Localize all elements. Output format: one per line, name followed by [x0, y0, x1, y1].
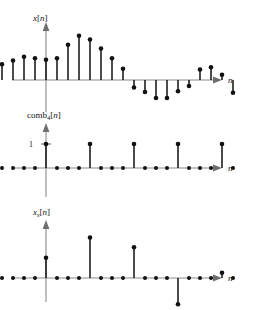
plot-xs: xs[n] n: [0, 207, 235, 307]
stem-marker: [121, 276, 125, 280]
stem-marker: [176, 142, 181, 147]
stem-marker: [88, 37, 93, 42]
stem-marker: [209, 65, 214, 70]
stem-marker: [22, 54, 27, 59]
stem-marker: [154, 166, 158, 170]
stem-marker: [132, 142, 137, 147]
stem-marker: [220, 270, 225, 275]
stem-marker: [231, 166, 235, 170]
stem-marker: [198, 166, 202, 170]
stem-marker: [121, 166, 125, 170]
stem-marker: [33, 56, 38, 61]
plot-x-label: x[n]: [32, 13, 48, 23]
stem-plots-svg: x[n] n comb4[n] n 1 xs[n]: [0, 0, 253, 310]
stem-marker: [0, 62, 4, 67]
signal-figure: x[n] n comb4[n] n 1 xs[n]: [0, 0, 253, 310]
stem-marker: [143, 90, 148, 95]
stem-marker: [165, 96, 170, 101]
stem-marker: [231, 90, 236, 95]
plot-xs-xaxis-arrow: [213, 275, 222, 282]
plot-x: x[n] n: [0, 13, 235, 112]
stem-marker: [187, 276, 191, 280]
stem-marker: [99, 166, 103, 170]
stem-marker: [66, 166, 70, 170]
stem-marker: [11, 58, 16, 63]
stem-marker: [132, 85, 137, 90]
stem-marker: [220, 72, 225, 77]
stem-marker: [154, 96, 159, 101]
stem-marker: [33, 276, 37, 280]
stem-marker: [55, 166, 59, 170]
stem-marker: [22, 166, 26, 170]
plot-x-yaxis-arrow: [43, 22, 50, 31]
plot-comb-xaxis-arrow: [213, 165, 222, 172]
stem-marker: [143, 166, 147, 170]
stem-marker: [187, 166, 191, 170]
stem-marker: [176, 89, 181, 94]
stem-marker: [121, 66, 126, 71]
stem-marker: [33, 166, 37, 170]
plot-xs-stems: [0, 235, 235, 306]
stem-marker: [143, 276, 147, 280]
stem-marker: [198, 276, 202, 280]
stem-marker: [88, 235, 93, 240]
stem-marker: [209, 166, 213, 170]
stem-marker: [110, 166, 114, 170]
stem-marker: [0, 166, 4, 170]
plot-comb: comb4[n] n 1: [0, 110, 235, 197]
stem-marker: [165, 166, 169, 170]
stem-marker: [11, 276, 15, 280]
stem-marker: [99, 46, 104, 51]
stem-marker: [165, 276, 169, 280]
plot-xs-label: xs[n]: [32, 207, 50, 218]
stem-marker: [99, 276, 103, 280]
plot-comb-ytick-label-1: 1: [29, 140, 33, 149]
stem-marker: [220, 142, 225, 147]
stem-marker: [154, 276, 158, 280]
stem-marker: [231, 276, 235, 280]
stem-marker: [77, 166, 81, 170]
stem-marker: [55, 276, 59, 280]
stem-marker: [22, 276, 26, 280]
stem-marker: [77, 33, 82, 38]
stem-marker: [0, 276, 4, 280]
stem-marker: [77, 276, 81, 280]
stem-marker: [44, 57, 49, 62]
stem-marker: [66, 42, 71, 47]
plot-comb-yaxis-arrow: [43, 123, 50, 132]
plot-comb-stems: [0, 142, 235, 170]
stem-marker: [55, 56, 60, 61]
plot-x-stems: [0, 33, 235, 100]
stem-marker: [66, 276, 70, 280]
stem-marker: [209, 276, 213, 280]
stem-marker: [44, 142, 49, 147]
stem-marker: [110, 276, 114, 280]
stem-marker: [187, 84, 192, 89]
stem-marker: [11, 166, 15, 170]
stem-marker: [88, 142, 93, 147]
plot-xs-yaxis-arrow: [43, 220, 50, 229]
stem-marker: [198, 67, 203, 72]
stem-marker: [176, 302, 181, 307]
stem-marker: [132, 245, 137, 250]
stem-marker: [110, 56, 115, 61]
plot-x-xaxis-arrow: [213, 77, 222, 84]
stem-marker: [44, 255, 49, 260]
plot-comb-label: comb4[n]: [27, 110, 61, 121]
